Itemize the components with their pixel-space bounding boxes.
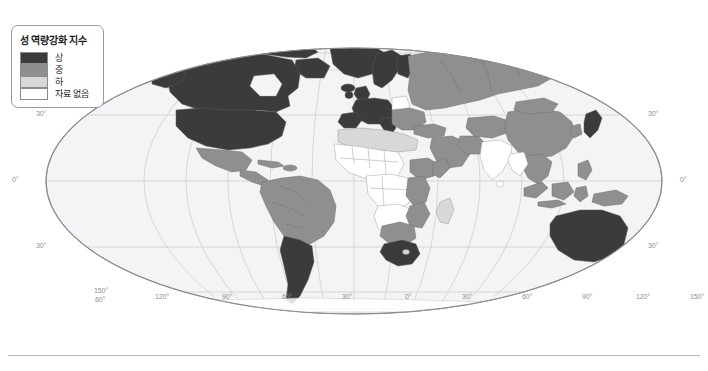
legend-label-medium: 중: [55, 64, 63, 76]
legend-swatch-high: [20, 52, 48, 64]
legend-label-high: 상: [55, 52, 63, 64]
region-tasmania: [603, 265, 613, 271]
legend-item-low: 하: [20, 76, 96, 88]
region-hispaniola: [283, 165, 297, 171]
lat-label: 0°: [12, 176, 19, 183]
lon-label: 0°: [405, 293, 412, 300]
lon-label: 150°: [94, 287, 108, 294]
legend-swatch-low: [20, 76, 48, 88]
legend-swatch-no-data: [20, 88, 48, 100]
legend-items: 상 중 하 자료 없음: [20, 52, 96, 100]
legend-item-high: 상: [20, 52, 96, 64]
world-map-figure: 30° 0° 30° 60° 30° 0° 30° 150° 120° 90° …: [0, 0, 708, 371]
legend-title: 성 역량강화 지수: [20, 32, 96, 47]
lon-label: 120°: [636, 293, 650, 300]
region-new-zealand: [642, 252, 656, 266]
lat-label: 30°: [36, 110, 46, 117]
legend-label-low: 하: [55, 76, 63, 88]
lon-label: 90°: [582, 293, 592, 300]
legend-item-no-data: 자료 없음: [20, 88, 96, 100]
lat-label: 30°: [648, 242, 658, 249]
lon-label: 120°: [155, 293, 169, 300]
legend-item-medium: 중: [20, 64, 96, 76]
world-map-svg: [0, 0, 708, 371]
lat-label: 30°: [36, 242, 46, 249]
region-ireland: [345, 92, 353, 99]
lon-label: 90°: [222, 293, 232, 300]
map-legend: 성 역량강화 지수 상 중 하 자료 없음: [11, 25, 104, 108]
lon-label: 30°: [342, 293, 352, 300]
footer-divider: [8, 355, 700, 356]
lon-label: 30°: [462, 293, 472, 300]
legend-label-no-data: 자료 없음: [55, 88, 89, 100]
region-new-zealand-south: [648, 264, 664, 278]
lon-label: 60°: [522, 293, 532, 300]
region-lesotho: [403, 250, 410, 255]
legend-swatch-medium: [20, 64, 48, 76]
lat-label: 0°: [680, 176, 687, 183]
region-antarctica: [140, 298, 560, 312]
lat-label: 30°: [648, 110, 658, 117]
lon-label: 60°: [282, 293, 292, 300]
region-iceland: [341, 84, 355, 92]
region-sri-lanka: [496, 181, 504, 187]
lat-label: 60°: [95, 296, 105, 303]
lon-label: 150°: [690, 293, 704, 300]
